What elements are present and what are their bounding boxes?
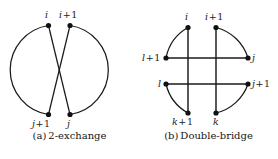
node-k-plus-1 (185, 110, 190, 115)
caption-text-a: 2-exchange (48, 130, 106, 141)
caption-panel-a: (a)2-exchange (0, 130, 139, 142)
label-node-j: j (67, 119, 70, 129)
label-node-j-plus-1: j+1 (32, 119, 50, 129)
arc-lower-right-b (216, 84, 248, 113)
node-k (213, 110, 218, 115)
label-node-i-plus-1: i+1 (205, 12, 223, 22)
arc-upper-right-b (216, 28, 248, 59)
node-i (185, 25, 190, 30)
node-l (163, 81, 168, 86)
panel-double-bridge: i i+1 j j+1 k k+1 l l+1 (b)Double-bridge (139, 0, 278, 159)
panel-2-exchange: i i+1 j+1 j (a)2-exchange (0, 0, 139, 159)
node-j-plus-1 (245, 81, 250, 86)
label-node-k: k (213, 117, 219, 127)
caption-panel-b: (b)Double-bridge (139, 130, 278, 142)
caption-tag-a: (a) (33, 130, 49, 141)
node-j-plus-1 (46, 112, 51, 117)
label-node-l-plus-1: l+1 (142, 53, 160, 63)
arc-right-a (70, 26, 108, 115)
node-i (46, 23, 51, 28)
arc-left-a (10, 26, 48, 115)
label-node-l: l (158, 79, 161, 89)
node-j (67, 112, 72, 117)
node-i-plus-1 (67, 23, 72, 28)
label-node-j-plus-1: j+1 (252, 79, 270, 89)
node-l-plus-1 (163, 55, 168, 60)
arc-lower-left-b (166, 84, 188, 113)
node-j (245, 55, 250, 60)
label-node-i-plus-1: i+1 (59, 10, 77, 20)
caption-tag-b: (b) (164, 130, 180, 141)
caption-text-b: Double-bridge (180, 130, 252, 141)
arc-upper-left-b (166, 28, 188, 59)
label-node-i: i (185, 12, 188, 22)
figure-page: i i+1 j+1 j (a)2-exchange (0, 0, 278, 159)
label-node-i: i (45, 10, 48, 20)
node-i-plus-1 (213, 25, 218, 30)
label-node-k-plus-1: k+1 (172, 117, 193, 127)
label-node-j: j (252, 53, 255, 63)
